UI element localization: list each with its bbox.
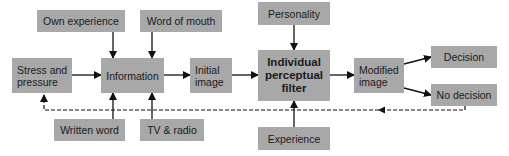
node-label: No decision xyxy=(437,89,492,101)
node-label-line2: image xyxy=(359,76,399,88)
node-experience: Experience xyxy=(258,127,330,150)
node-label-line3: filter xyxy=(265,82,323,95)
node-label: Personality xyxy=(268,8,320,20)
node-label-line2: pressure xyxy=(17,76,67,88)
node-information: Information xyxy=(101,58,164,93)
node-label: Experience xyxy=(268,133,321,145)
node-personality: Personality xyxy=(258,2,330,25)
node-label: TV & radio xyxy=(147,124,197,136)
node-label-line1: Stress and xyxy=(17,64,67,76)
node-written-word: Written word xyxy=(54,119,125,141)
node-label: Word of mouth xyxy=(147,15,216,27)
node-initial-image: Initial image xyxy=(190,58,232,93)
node-modified-image: Modified image xyxy=(354,58,404,93)
node-label: Written word xyxy=(60,124,119,136)
node-word-of-mouth: Word of mouth xyxy=(140,10,222,32)
node-label: Information xyxy=(106,70,159,82)
node-label: Own experience xyxy=(43,15,119,27)
node-individual-perceptual-filter: Individual perceptual filter xyxy=(258,50,330,101)
node-stress-and-pressure: Stress and pressure xyxy=(12,58,72,93)
node-label-line2: perceptual xyxy=(265,69,323,82)
node-own-experience: Own experience xyxy=(37,10,125,32)
feedback-dashed-loop xyxy=(44,95,465,110)
node-label-line2: image xyxy=(195,76,224,88)
node-tv-radio: TV & radio xyxy=(140,119,204,141)
node-decision: Decision xyxy=(431,46,497,68)
node-label-line1: Individual xyxy=(265,56,323,69)
arrow-modified-to-decision xyxy=(404,57,431,64)
node-label-line1: Modified xyxy=(359,64,399,76)
node-no-decision: No decision xyxy=(431,84,497,106)
arrow-modified-to-no-decision xyxy=(404,88,431,95)
feedback-mid-arrowhead xyxy=(378,107,385,114)
node-label-line1: Initial xyxy=(195,64,224,76)
node-label: Decision xyxy=(444,51,484,63)
